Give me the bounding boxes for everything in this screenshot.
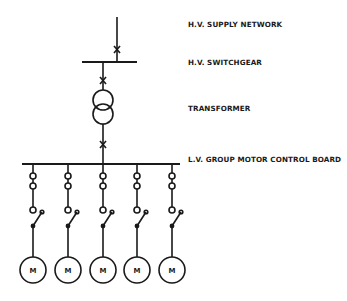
motor-branch-3 [90, 164, 116, 283]
motor-branch-4 [124, 164, 150, 283]
hv-supply-network-label: H.V. SUPPLY NETWORK [188, 20, 282, 29]
hv-switchgear-label: H.V. SWITCHGEAR [188, 58, 262, 67]
single-line-diagram: M M M M M [0, 0, 347, 301]
motor-label-2: M [65, 267, 72, 275]
transformer-label: TRANSFORMER [188, 104, 250, 113]
motor-label-1: M [30, 267, 37, 275]
transformer-icon [93, 90, 113, 124]
fuse-contact-icon [30, 183, 36, 189]
fuse-contact-icon [30, 173, 36, 179]
motor-label-3: M [100, 267, 107, 275]
motor-branch-2 [55, 164, 81, 283]
switch-contact-icon [30, 207, 36, 213]
motor-label-5: M [169, 267, 176, 275]
lv-group-motor-control-board-label: L.V. GROUP MOTOR CONTROL BOARD [188, 155, 341, 164]
motor-label-4: M [134, 267, 141, 275]
motor-branch-1 [20, 164, 46, 283]
motor-branch-5 [159, 164, 185, 283]
